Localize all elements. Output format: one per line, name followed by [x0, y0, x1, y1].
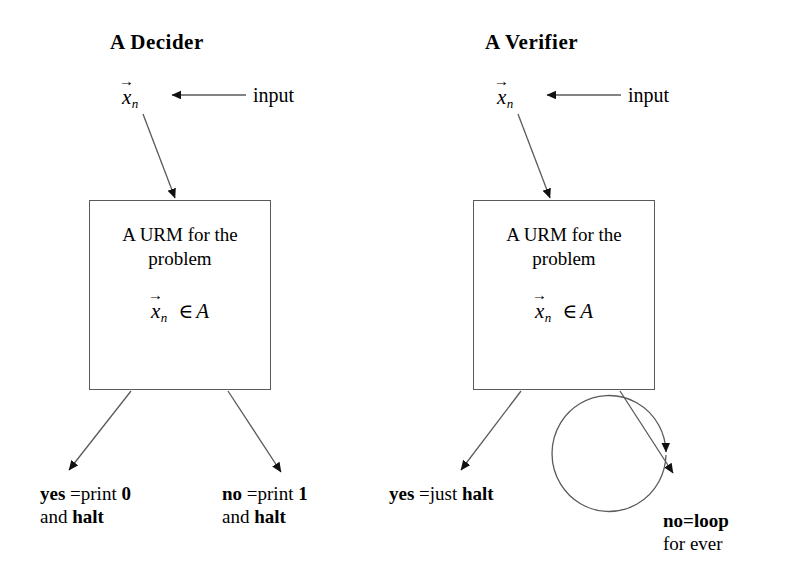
page-title-verifier: A Verifier — [485, 30, 578, 55]
formula-vector-subscript: n — [545, 310, 552, 325]
outcome-line2-keyword: halt — [72, 506, 104, 527]
feed-arrow-verifier — [518, 114, 550, 198]
page-title-decider: A Decider — [110, 30, 204, 55]
infinite-loop-path — [552, 396, 666, 512]
outcome-keyword: no=loop — [663, 510, 729, 531]
feed-arrow-decider — [143, 114, 175, 198]
outcome-value: 1 — [298, 483, 308, 504]
urm-box-heading-decider: A URM for the problem — [90, 223, 270, 272]
yes-arrow-decider — [69, 391, 131, 470]
input-label-decider: input — [253, 84, 294, 107]
formula-vector-arrow-accent-icon: → — [148, 288, 163, 303]
outcome-yes-verifier: yes =just halt — [389, 482, 494, 505]
input-vector-decider: → x n — [122, 85, 138, 112]
diagram-canvas: A Decider → x n input A URM for the prob… — [0, 0, 807, 568]
no-arrow-verifier — [620, 391, 673, 473]
outcome-line2-prefix: and — [40, 506, 72, 527]
formula-set: A — [580, 299, 593, 323]
urm-heading-line1: A URM for the — [506, 224, 622, 245]
formula-set: A — [196, 299, 209, 323]
outcome-middle: =print — [242, 483, 298, 504]
outcome-value: 0 — [121, 483, 131, 504]
outcome-no-verifier: no=loop for ever — [663, 509, 729, 555]
urm-box-formula-decider: → x n ∈A — [90, 299, 270, 326]
urm-heading-line2: problem — [148, 248, 211, 269]
input-vector-verifier: → x n — [497, 85, 513, 112]
input-label-verifier: input — [628, 84, 669, 107]
vector-subscript: n — [132, 96, 139, 111]
outcome-no-decider: no =print 1 and halt — [222, 482, 308, 528]
outcome-line2: for ever — [663, 533, 723, 554]
outcome-value: halt — [462, 483, 494, 504]
outcome-keyword: yes — [40, 483, 65, 504]
urm-box-decider: A URM for the problem → x n ∈A — [89, 200, 271, 390]
outcome-keyword: no — [222, 483, 242, 504]
urm-box-formula-verifier: → x n ∈A — [474, 299, 654, 326]
outcome-line2-keyword: halt — [254, 506, 286, 527]
vector-subscript: n — [507, 96, 514, 111]
vector-arrow-accent-icon: → — [494, 74, 509, 89]
formula-vector-arrow-accent-icon: → — [532, 288, 547, 303]
urm-heading-line1: A URM for the — [122, 224, 238, 245]
outcome-line2-prefix: and — [222, 506, 254, 527]
formula-vector-subscript: n — [161, 310, 168, 325]
yes-arrow-verifier — [461, 391, 521, 470]
outcome-yes-decider: yes =print 0 and halt — [40, 482, 131, 528]
formula-relation: ∈ — [179, 300, 194, 322]
outcome-keyword: yes — [389, 483, 414, 504]
vector-arrow-accent-icon: → — [119, 74, 134, 89]
urm-box-verifier: A URM for the problem → x n ∈A — [473, 200, 655, 390]
urm-box-heading-verifier: A URM for the problem — [474, 223, 654, 272]
outcome-middle: =just — [414, 483, 462, 504]
outcome-middle: =print — [65, 483, 121, 504]
no-arrow-decider — [228, 391, 281, 472]
urm-heading-line2: problem — [532, 248, 595, 269]
formula-relation: ∈ — [563, 300, 578, 322]
